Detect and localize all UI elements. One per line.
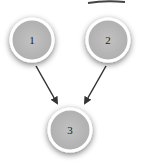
node-3: 3: [49, 109, 91, 151]
edge-2-to-3-arrow: [85, 66, 106, 103]
node-1: 1: [11, 19, 53, 61]
graph-svg: 1 2 3: [0, 0, 142, 167]
node-1-label: 1: [29, 34, 35, 46]
edge-1-to-3-arrow: [36, 66, 57, 103]
node-2-label: 2: [105, 34, 111, 46]
node-3-label: 3: [67, 124, 73, 136]
diagram-canvas: 1 2 3: [0, 0, 142, 167]
cropped-fragment: [88, 1, 125, 3]
node-2: 2: [87, 19, 129, 61]
